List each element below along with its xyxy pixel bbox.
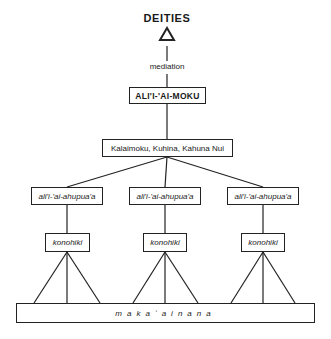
line-council-chief-1 xyxy=(67,157,167,187)
overseer-label: konohiki xyxy=(53,238,82,247)
ruler-label: ALI'I-'AI-MOKU xyxy=(135,91,199,101)
connector-lines xyxy=(0,0,331,339)
mediation-label: mediation xyxy=(127,62,207,71)
chief-label: ali'i-'ai-ahupua'a xyxy=(136,192,193,201)
overseer-label: konohiki xyxy=(150,238,179,247)
chief-label: ali'i-'ai-ahupua'a xyxy=(234,192,291,201)
fan-2 xyxy=(133,252,198,303)
council-box: Kalaimoku, Kuhina, Kahuna Nui xyxy=(102,139,233,157)
chief-box-2: ali'i-'ai-ahupua'a xyxy=(129,187,201,205)
fan-3 xyxy=(231,252,295,303)
overseer-box-3: konohiki xyxy=(241,233,285,252)
overseer-box-2: konohiki xyxy=(143,233,187,252)
ruler-box: ALI'I-'AI-MOKU xyxy=(129,87,206,104)
chief-label: ali'i-'ai-ahupua'a xyxy=(38,192,95,201)
chief-box-1: ali'i-'ai-ahupua'a xyxy=(31,187,103,205)
base-label: makaʻainana xyxy=(115,309,215,318)
deities-label: DEITIES xyxy=(117,12,217,24)
line-council-chief-3 xyxy=(167,157,263,187)
deities-triangle-icon xyxy=(160,28,174,40)
overseer-box-1: konohiki xyxy=(45,233,90,252)
line-council-chief-2 xyxy=(165,157,167,187)
overseer-label: konohiki xyxy=(248,238,277,247)
fan-1 xyxy=(34,252,100,303)
chief-box-3: ali'i-'ai-ahupua'a xyxy=(227,187,299,205)
council-label: Kalaimoku, Kuhina, Kahuna Nui xyxy=(111,144,224,153)
base-box: makaʻainana xyxy=(16,303,315,323)
